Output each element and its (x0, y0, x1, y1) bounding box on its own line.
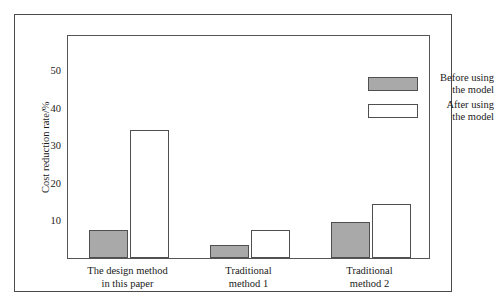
plot-area: Before using the model After using the m… (67, 35, 430, 259)
bar-after (130, 130, 169, 258)
y-axis-tick-label: 50 (21, 66, 61, 77)
legend-label-after-line1: After using (446, 99, 494, 110)
legend-swatch-after-icon (368, 104, 418, 118)
x-axis-group-label: Traditionalmethod 1 (179, 265, 319, 290)
bar-before (210, 245, 249, 258)
legend-label-before-line2: the model (452, 84, 494, 95)
x-axis-group-label: The design methodin this paper (58, 265, 198, 290)
x-axis-group-label-line: Traditional (300, 265, 440, 278)
legend-swatch-before-icon (368, 77, 418, 91)
x-axis-group-label-line: The design method (58, 265, 198, 278)
x-axis-group-label-line: method 1 (179, 278, 319, 291)
bar-before (89, 230, 128, 258)
legend-label-after-line2: the model (452, 111, 494, 122)
chart-legend: Before using the model After using the m… (368, 74, 494, 128)
x-axis-group-label-line: Traditional (179, 265, 319, 278)
legend-label-before-line1: Before using (440, 72, 494, 83)
x-axis-group-label-line: method 2 (300, 278, 440, 291)
y-axis-tick-label: 30 (21, 141, 61, 152)
bar-before (331, 222, 370, 258)
legend-label-before: Before using the model (424, 72, 494, 96)
bar-after (372, 204, 411, 258)
legend-item-before: Before using the model (368, 74, 494, 101)
bar-after (251, 230, 290, 258)
y-axis-tick-label: 10 (21, 216, 61, 227)
legend-label-after: After using the model (424, 99, 494, 123)
y-axis-tick-label: 40 (21, 104, 61, 115)
x-axis-group-label-line: in this paper (58, 278, 198, 291)
y-axis-tick-label: 20 (21, 179, 61, 190)
legend-item-after: After using the model (368, 101, 494, 128)
x-axis-group-label: Traditionalmethod 2 (300, 265, 440, 290)
